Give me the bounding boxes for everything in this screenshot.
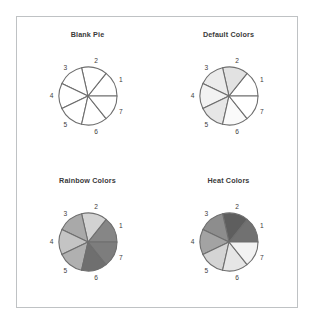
pie-slice-label: 4 [49,92,53,99]
pie-slice-label: 2 [94,57,98,64]
pie-slice-label: 6 [235,274,239,281]
pie-chart-rainbow-colors[interactable]: 1234567 [17,189,158,299]
pie-slice-label: 2 [235,203,239,210]
pie-slice-label: 1 [119,222,123,229]
pie-slice-label: 4 [190,92,194,99]
panel-title: Default Colors [158,30,299,39]
pie-slice-label: 3 [204,210,208,217]
pie-slice-label: 7 [260,108,264,115]
pie-slice-label: 6 [94,274,98,281]
pie-panel-blank-pie: Blank Pie 1234567 [17,17,158,163]
pie-slice-label: 3 [63,210,67,217]
panel-title: Rainbow Colors [17,176,158,185]
panel-title: Blank Pie [17,30,158,39]
pie-slice-label: 4 [49,238,53,245]
pie-slice-label: 6 [235,128,239,135]
pie-slice-label: 5 [63,121,67,128]
pie-slice-label: 1 [260,76,264,83]
pie-chart-default-colors[interactable]: 1234567 [158,43,299,153]
pie-slice-label: 1 [260,222,264,229]
pie-slice-label: 7 [119,254,123,261]
pie-panel-heat-colors: Heat Colors 1234567 [158,163,299,309]
pie-slice-label: 5 [204,121,208,128]
pie-svg: 1234567 [33,48,143,148]
pie-slice-label: 4 [190,238,194,245]
panel-title: Heat Colors [158,176,299,185]
pie-panel-default-colors: Default Colors 1234567 [158,17,299,163]
pie-slice-label: 5 [63,267,67,274]
pie-slice-label: 5 [204,267,208,274]
pie-slice-label: 2 [235,57,239,64]
pie-slice-label: 3 [204,64,208,71]
pie-chart-heat-colors[interactable]: 1234567 [158,189,299,299]
plot-frame: Blank Pie 1234567 Default Colors 1234567… [16,16,298,308]
pie-slice-label: 3 [63,64,67,71]
pie-svg: 1234567 [174,48,284,148]
pie-slice-label: 1 [119,76,123,83]
pie-slice-label: 7 [260,254,264,261]
figure-canvas: Blank Pie 1234567 Default Colors 1234567… [0,0,316,323]
pie-svg: 1234567 [33,194,143,294]
pie-panel-rainbow-colors: Rainbow Colors 1234567 [17,163,158,309]
pie-chart-blank-pie[interactable]: 1234567 [17,43,158,153]
pie-svg: 1234567 [174,194,284,294]
pie-slice-label: 2 [94,203,98,210]
pie-slice-label: 6 [94,128,98,135]
pie-slice-label: 7 [119,108,123,115]
